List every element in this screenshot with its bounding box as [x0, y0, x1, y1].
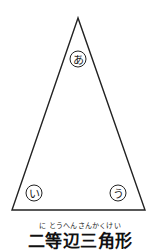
svg-text:あ: あ — [73, 54, 84, 67]
vertex-label-i: い — [26, 185, 42, 201]
svg-text:い: い — [29, 188, 40, 201]
vertex-label-a: あ — [70, 51, 86, 67]
caption-title: 二等辺三角形 — [0, 227, 160, 251]
svg-text:う: う — [113, 188, 124, 201]
vertex-label-u: う — [110, 185, 126, 201]
isosceles-triangle — [12, 18, 145, 210]
triangle-diagram: あ い う — [0, 0, 160, 251]
